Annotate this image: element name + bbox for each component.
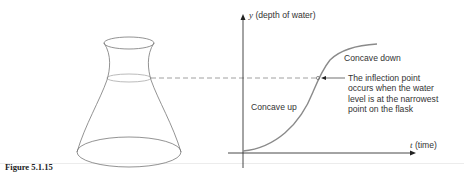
- flask-illustration: [77, 37, 181, 167]
- y-axis-description: (depth of water): [253, 10, 316, 20]
- inflection-note-line: occurs when the water: [348, 83, 438, 93]
- inflection-note-line: point on the flask: [348, 104, 438, 114]
- concave-up-label: Concave up: [251, 103, 297, 112]
- y-axis-label: y (depth of water): [249, 11, 316, 20]
- x-axis-label: t (time): [410, 141, 437, 150]
- inflection-pointer-arrow-icon: [321, 76, 326, 80]
- inflection-note: The inflection point occurs when the wat…: [348, 73, 438, 114]
- x-axis-description: (time): [413, 140, 437, 150]
- inflection-note-line: The inflection point: [348, 73, 438, 83]
- x-axis-arrow-icon: [410, 151, 416, 156]
- inflection-note-line: level is at the narrowest: [348, 94, 438, 104]
- y-axis-arrow-icon: [241, 14, 246, 20]
- concave-down-label: Concave down: [344, 54, 401, 63]
- figure-caption: Figure 5.1.15: [5, 162, 53, 172]
